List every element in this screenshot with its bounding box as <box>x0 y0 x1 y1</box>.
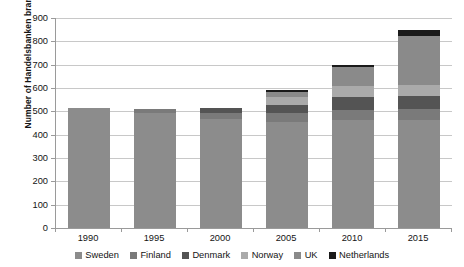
gridline <box>56 158 452 159</box>
x-axis-tick-label: 1990 <box>56 233 120 243</box>
legend-label: Netherlands <box>339 250 389 260</box>
y-axis-tick-label: 600 <box>4 83 48 93</box>
legend-item-netherlands[interactable]: Netherlands <box>329 250 390 260</box>
legend-swatch-icon <box>182 252 189 259</box>
gridline <box>56 88 452 89</box>
bar-segment-norway[interactable] <box>332 86 374 97</box>
bar-segment-sweden[interactable] <box>266 122 308 228</box>
legend-swatch-icon <box>294 252 301 259</box>
legend-swatch-icon <box>329 252 336 259</box>
y-axis-tick-label: 800 <box>4 36 48 46</box>
y-axis-tick-label: 500 <box>4 106 48 116</box>
bar-2015[interactable] <box>398 30 440 228</box>
bar-segment-netherlands[interactable] <box>398 30 440 37</box>
legend-swatch-icon <box>130 252 137 259</box>
y-axis-tick-label: 100 <box>4 200 48 210</box>
y-axis-tick-label: 900 <box>4 13 48 23</box>
bar-segment-uk[interactable] <box>332 67 374 86</box>
x-axis-tick-mark <box>451 228 452 232</box>
y-axis-tick-label: 200 <box>4 176 48 186</box>
legend-label: Norway <box>252 250 284 260</box>
x-axis-tick-mark <box>253 228 254 232</box>
y-axis-tick-label: 700 <box>4 60 48 70</box>
bar-2000[interactable] <box>200 108 242 228</box>
legend-item-norway[interactable]: Norway <box>241 250 283 260</box>
x-axis-tick-label: 2000 <box>188 233 252 243</box>
bar-segment-norway[interactable] <box>398 85 440 96</box>
x-axis-tick-mark <box>121 228 122 232</box>
bar-segment-sweden[interactable] <box>398 120 440 228</box>
bar-segment-norway[interactable] <box>266 97 308 105</box>
legend-item-denmark[interactable]: Denmark <box>182 250 230 260</box>
gridline <box>56 205 452 206</box>
legend-label: Denmark <box>192 250 230 260</box>
legend-swatch-icon <box>75 252 82 259</box>
bar-1995[interactable] <box>134 109 176 228</box>
bar-segment-sweden[interactable] <box>68 108 110 228</box>
x-axis-tick-label: 2005 <box>254 233 318 243</box>
gridline <box>56 111 452 112</box>
x-axis-tick-mark <box>319 228 320 232</box>
bar-segment-sweden[interactable] <box>200 119 242 228</box>
stacked-bar-chart: Number of Handelsbanken branches 0100200… <box>0 0 464 267</box>
y-axis-tick-label: 300 <box>4 153 48 163</box>
bar-segment-uk[interactable] <box>398 36 440 85</box>
gridline <box>56 65 452 66</box>
legend-item-finland[interactable]: Finland <box>130 250 171 260</box>
bar-2010[interactable] <box>332 65 374 228</box>
legend-item-sweden[interactable]: Sweden <box>75 250 119 260</box>
bar-segment-denmark[interactable] <box>266 105 308 113</box>
bar-segment-denmark[interactable] <box>398 96 440 109</box>
x-axis-tick-mark <box>55 228 56 232</box>
legend-label: UK <box>305 250 318 260</box>
bar-segment-sweden[interactable] <box>332 120 374 228</box>
x-axis-tick-mark <box>385 228 386 232</box>
chart-legend: SwedenFinlandDenmarkNorwayUKNetherlands <box>0 250 464 260</box>
gridline <box>56 181 452 182</box>
bar-segment-finland[interactable] <box>332 110 374 121</box>
x-axis-tick-label: 2015 <box>386 233 450 243</box>
bar-segment-finland[interactable] <box>266 113 308 122</box>
bar-segment-sweden[interactable] <box>134 113 176 229</box>
bar-2005[interactable] <box>266 90 308 228</box>
bar-1990[interactable] <box>68 108 110 228</box>
legend-label: Finland <box>140 250 171 260</box>
x-axis-tick-label: 1995 <box>122 233 186 243</box>
gridline <box>56 41 452 42</box>
legend-swatch-icon <box>241 252 248 259</box>
legend-label: Sweden <box>85 250 119 260</box>
legend-item-uk[interactable]: UK <box>294 250 317 260</box>
gridline <box>56 18 452 19</box>
plot-area <box>55 18 452 229</box>
x-axis-tick-label: 2010 <box>320 233 384 243</box>
gridline <box>56 135 452 136</box>
bar-segment-finland[interactable] <box>398 109 440 120</box>
y-axis-tick-label: 400 <box>4 130 48 140</box>
bar-segment-denmark[interactable] <box>332 97 374 110</box>
x-axis-tick-mark <box>187 228 188 232</box>
y-axis-tick-label: 0 <box>4 223 48 233</box>
